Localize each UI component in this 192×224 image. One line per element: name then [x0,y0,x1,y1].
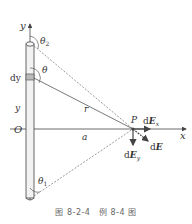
line-top-to-p [34,46,133,129]
dEx-label: dEx [143,116,160,127]
charged-rod [26,42,34,200]
dE-label: dE [150,142,163,152]
y-axis-label: y [19,20,26,31]
dE-vector [133,129,148,141]
theta-label: θ [42,65,48,75]
y-label: y [14,103,21,113]
dy-label: dy [10,73,22,83]
p-label: P [130,115,138,125]
r-label: r [84,104,89,114]
x-axis-label: x [180,130,186,141]
figure-caption: 图 8-2-4 例 8-4 图 [0,206,192,217]
theta2-label: θ2 [40,36,49,47]
origin-label: O [14,124,22,135]
dy-element [26,74,34,80]
dEy-label: dEy [124,150,141,162]
a-label: a [82,132,87,142]
theta1-label: θ1 [38,176,47,187]
charged-rod-diagram: y x O θ2 θ θ1 dy y r a P dEx dEy dE [0,0,192,224]
